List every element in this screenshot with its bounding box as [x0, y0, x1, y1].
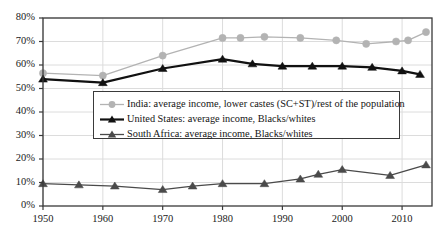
y-axis-tick-label: 50% — [0, 82, 35, 93]
x-axis-tick-label: 1970 — [138, 213, 188, 224]
data-point-south_africa — [422, 161, 431, 168]
data-point-india — [99, 72, 106, 79]
data-point-india — [404, 37, 411, 44]
data-point-india — [422, 28, 429, 35]
series-united_states — [39, 55, 425, 85]
legend-entry: South Africa: average income, Blacks/whi… — [99, 126, 393, 141]
x-axis-tick-label: 2010 — [377, 213, 427, 224]
legend-entry: India: average income, lower castes (SC+… — [99, 96, 393, 111]
y-axis-tick-label: 0% — [0, 199, 35, 210]
y-axis-tick-label: 80% — [0, 11, 35, 22]
x-axis-tick-label: 1980 — [198, 213, 248, 224]
data-point-india — [159, 52, 166, 59]
triangle-marker-icon — [99, 127, 125, 140]
data-point-india — [392, 38, 399, 45]
triangle-marker-icon — [99, 112, 125, 125]
data-point-india — [261, 33, 268, 40]
x-axis-tick-label: 2000 — [317, 213, 367, 224]
chart-container: 0%10%20%30%40%50%60%70%80% 1950196019701… — [0, 0, 446, 236]
data-point-india — [219, 34, 226, 41]
x-axis-tick-label: 1950 — [18, 213, 68, 224]
series-south_africa — [39, 161, 431, 193]
y-axis-tick-label: 60% — [0, 58, 35, 69]
circle-marker-icon — [99, 97, 125, 110]
x-axis-tick-label: 1960 — [78, 213, 128, 224]
y-axis-tick-label: 70% — [0, 35, 35, 46]
legend-label: India: average income, lower castes (SC+… — [127, 97, 405, 110]
data-point-india — [363, 40, 370, 47]
series-india — [39, 28, 429, 79]
legend-label: South Africa: average income, Blacks/whi… — [127, 127, 313, 140]
data-point-south_africa — [338, 166, 347, 173]
y-axis-tick-label: 40% — [0, 105, 35, 116]
legend-entry: United States: average income, Blacks/wh… — [99, 111, 393, 126]
legend-label: United States: average income, Blacks/wh… — [127, 112, 315, 125]
chart-legend: India: average income, lower castes (SC+… — [93, 91, 400, 139]
y-axis-tick-label: 10% — [0, 176, 35, 187]
y-axis-tick-label: 30% — [0, 129, 35, 140]
data-point-india — [237, 34, 244, 41]
y-axis-tick-label: 20% — [0, 152, 35, 163]
data-point-india — [333, 37, 340, 44]
x-axis-tick-label: 1990 — [257, 213, 307, 224]
data-point-india — [297, 34, 304, 41]
